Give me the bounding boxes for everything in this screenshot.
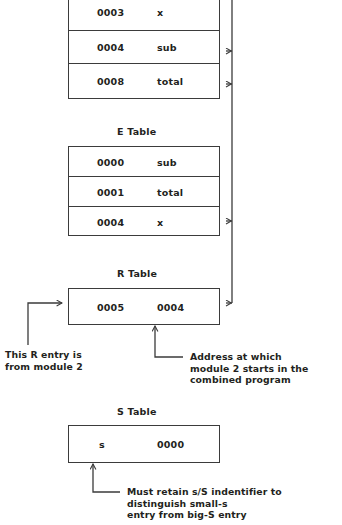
cell-symbol: x bbox=[157, 6, 163, 17]
e-table: 0000 sub 0001 total 0004 x bbox=[68, 146, 220, 236]
top-table: 0003 x 0004 sub 0008 total bbox=[68, 0, 220, 99]
cell-address: 0008 bbox=[97, 75, 124, 86]
r-entry-note: This R entry is from module 2 bbox=[5, 349, 115, 372]
r-table: 0005 0004 bbox=[68, 288, 220, 325]
cell-address: 0003 bbox=[97, 6, 124, 17]
e-table-label: E Table bbox=[117, 126, 156, 137]
s-identifier-note: Must retain s/S indentifier to distingui… bbox=[127, 486, 342, 521]
cell-address: 0001 bbox=[97, 186, 124, 197]
table-row: s 0000 bbox=[69, 426, 219, 462]
diagram-canvas: 0003 x 0004 sub 0008 total E Table 0000 … bbox=[0, 0, 342, 525]
s-table-label: S Table bbox=[117, 406, 157, 417]
address-note: Address at which module 2 starts in the … bbox=[190, 351, 315, 386]
cell-symbol: total bbox=[157, 186, 183, 197]
cell-symbol: 0000 bbox=[157, 439, 184, 450]
r-table-label: R Table bbox=[117, 268, 157, 279]
cell-symbol: 0004 bbox=[157, 301, 184, 312]
table-row: 0003 x bbox=[69, 0, 219, 31]
cell-address: 0000 bbox=[97, 156, 124, 167]
cell-address: 0005 bbox=[97, 301, 124, 312]
table-row: 0004 x bbox=[69, 207, 219, 237]
cell-address: 0004 bbox=[97, 217, 124, 228]
table-row: 0008 total bbox=[69, 64, 219, 97]
table-row: 0001 total bbox=[69, 177, 219, 207]
cell-symbol: x bbox=[157, 217, 163, 228]
cell-symbol: sub bbox=[157, 156, 177, 167]
cell-address: s bbox=[99, 439, 105, 450]
table-row: 0000 sub bbox=[69, 147, 219, 177]
table-row: 0004 sub bbox=[69, 31, 219, 64]
table-row: 0005 0004 bbox=[69, 289, 219, 324]
s-table: s 0000 bbox=[68, 425, 220, 463]
cell-address: 0004 bbox=[97, 42, 124, 53]
cell-symbol: sub bbox=[157, 42, 177, 53]
cell-symbol: total bbox=[157, 75, 183, 86]
